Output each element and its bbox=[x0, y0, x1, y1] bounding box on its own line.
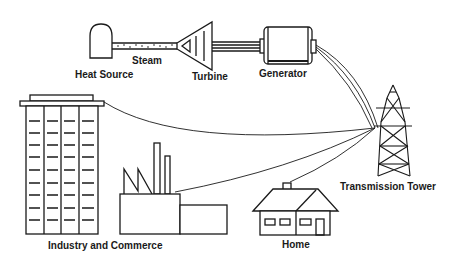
power-line-generator bbox=[316, 45, 378, 128]
power-grid-diagram bbox=[0, 0, 460, 260]
transmission-tower-icon bbox=[374, 85, 412, 176]
steam-pipe-icon bbox=[112, 43, 177, 49]
home-label: Home bbox=[282, 239, 310, 250]
factory-icon bbox=[120, 143, 227, 234]
industry-commerce-label: Industry and Commerce bbox=[48, 240, 162, 251]
power-line-industry bbox=[104, 102, 375, 192]
turbine-label: Turbine bbox=[192, 71, 228, 82]
transmission-tower-label: Transmission Tower bbox=[340, 181, 436, 192]
heat-source-icon bbox=[90, 24, 112, 58]
heat-source-label: Heat Source bbox=[75, 69, 133, 80]
generator-label: Generator bbox=[259, 68, 307, 79]
steam-label: Steam bbox=[132, 55, 162, 66]
shaft-icon bbox=[212, 42, 260, 51]
house-icon bbox=[253, 183, 338, 235]
office-building-icon bbox=[20, 95, 104, 234]
turbine-icon bbox=[177, 22, 212, 70]
generator-icon bbox=[260, 27, 316, 64]
